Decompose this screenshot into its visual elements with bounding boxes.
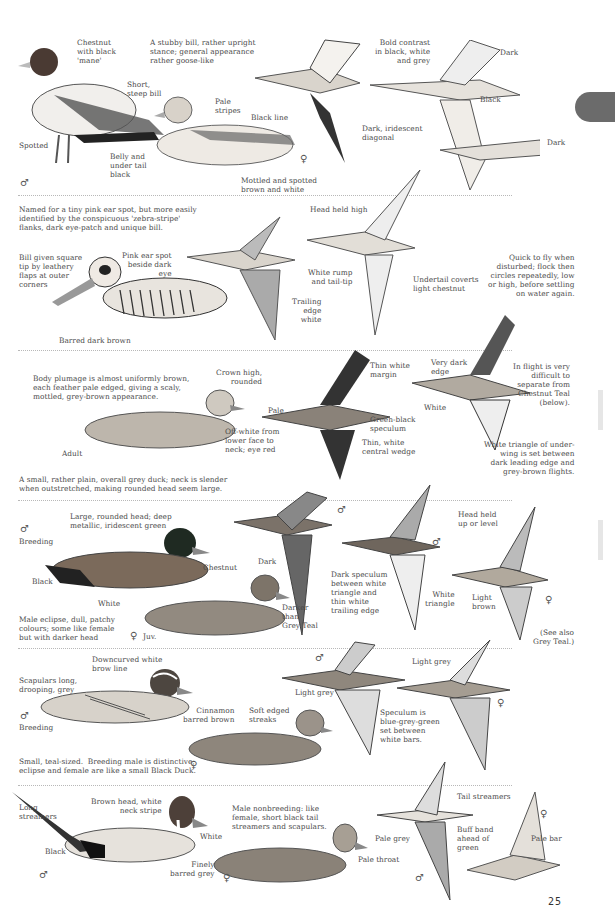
label-pale-grey: Pale grey [375, 834, 410, 843]
label-pale-bar: Pale bar [531, 834, 562, 843]
label-barred-dark-brown: Barred dark brown [59, 336, 131, 345]
flight-note: In flight is very difficult to separate … [513, 362, 570, 407]
female-symbol: ♀ [545, 594, 552, 605]
flight-note: Quick to fly when disturbed; flock then … [488, 253, 575, 298]
label-white-triangle: White triangle of under- wing is set bet… [484, 440, 574, 476]
female-symbol: ♀ [497, 697, 504, 708]
page-edge-mark [598, 520, 603, 560]
label-short-bill: Short, steep bill [127, 80, 161, 98]
male-symbol: ♂ [39, 869, 48, 880]
female-symbol: ♀ [540, 808, 547, 819]
label-breeding: Breeding [19, 723, 53, 732]
label-black: Black [480, 95, 501, 104]
label-black: Black [45, 847, 66, 856]
label-soft-edged-streaks: Soft edged streaks [249, 706, 290, 724]
label-white: White [424, 403, 446, 412]
label-bold-contrast: Bold contrast in black, white and grey [375, 38, 430, 65]
label-crown-high: Crown high, rounded [216, 368, 262, 386]
male-symbol: ♂ [432, 536, 441, 547]
page-edge-mark [598, 390, 603, 430]
label-tail-streamers: Tail streamers [457, 792, 511, 801]
label-head-held-high: Head held high [310, 205, 368, 214]
label-darker-than-grey-teal: Darker than Grey Teal [282, 603, 318, 630]
label-dark: Dark [258, 557, 276, 566]
label-speculum: Speculum is blue-grey-green set between … [380, 708, 440, 744]
intro-text: A stubby bill, rather upright stance; ge… [150, 38, 256, 65]
label-pink-ear-spot: Pink ear spot beside dark eye [122, 251, 172, 278]
flying-pink-eared-illustration [185, 215, 305, 345]
body-plumage-text: Body plumage is almost uniformly brown, … [33, 374, 189, 401]
label-offwhite: Off-white from lower face to neck; eye r… [225, 427, 279, 454]
label-light-grey: Light grey [295, 688, 334, 697]
label-cinnamon: Cinnamon barred brown [183, 706, 234, 724]
label-trailing-edge: Trailing edge white [292, 297, 321, 324]
garganey-male-illustration [35, 665, 195, 730]
label-white: White [200, 832, 222, 841]
label-dark: Dark [500, 48, 518, 57]
label-undertail-coverts: Undertail coverts light chestnut [413, 275, 479, 293]
label-pale: Pale [268, 406, 284, 415]
label-long-streamers: Long streamers [19, 803, 57, 821]
male-symbol: ♂ [415, 872, 424, 883]
label-iridescent-diagonal: Dark, iridescent diagonal [362, 124, 422, 142]
label-chestnut-mane: Chestnut with black 'mane' [77, 38, 116, 65]
label-white-rump: White rump and tail-tip [308, 268, 352, 286]
female-symbol: ♀ [300, 153, 307, 164]
label-dark-speculum: Dark speculum between white triangle and… [331, 570, 388, 615]
page-number: 25 [548, 896, 562, 907]
thumb-index-tab [575, 92, 615, 122]
female-symbol: ♀ [130, 630, 137, 641]
label-scapulars: Scapulars long, drooping, grey [19, 676, 77, 694]
label-very-dark-edge: Very dark edge [431, 358, 467, 376]
label-adult: Adult [62, 449, 82, 458]
eclipse-note: Male eclipse, dull, patchy colours; some… [19, 615, 115, 642]
label-white-triangle: White triangle [425, 590, 455, 608]
see-also-note: (See also Grey Teal.) [533, 628, 574, 646]
label-chestnut: Chestnut [203, 563, 237, 572]
label-black: Black [32, 577, 53, 586]
male-symbol: ♂ [20, 523, 29, 534]
label-bill-square-tip: Bill given square tip by leathery flaps … [19, 253, 82, 289]
label-large-head: Large, rounded head; deep metallic, irid… [70, 512, 172, 530]
male-symbol: ♂ [20, 710, 29, 721]
male-symbol: ♂ [20, 177, 29, 188]
label-pale-throat: Pale throat [358, 855, 399, 864]
label-white: White [98, 599, 120, 608]
label-head-held-up: Head held up or level [458, 510, 498, 528]
label-brow-line: Downcurved white brow line [92, 655, 162, 673]
label-juv: Juv. [143, 632, 156, 641]
label-spotted: Spotted [19, 141, 48, 150]
nonbreeding-note: Male nonbreeding: like female, short bla… [232, 804, 327, 831]
female-symbol: ♀ [223, 872, 230, 883]
label-central-wedge: Thin, white central wedge [362, 438, 415, 456]
label-belly-black: Belly and under tail black [110, 152, 147, 179]
label-black-line: Black line [251, 113, 288, 122]
label-light-brown: Light brown [472, 593, 496, 611]
flying-pink-eared-2-illustration [305, 170, 425, 340]
label-thin-white-margin: Thin white margin [370, 361, 410, 379]
female-symbol: ♀ [190, 759, 197, 770]
male-symbol: ♂ [337, 504, 346, 515]
label-dark: Dark [547, 138, 565, 147]
summary-text: A small, rather plain, overall grey duck… [19, 475, 227, 493]
intro-text: Named for a tiny pink ear spot, but more… [19, 205, 197, 232]
label-finely-barred: Finely barred grey [170, 860, 214, 878]
label-breeding: Breeding [19, 537, 53, 546]
label-pale-stripes: Pale stripes [215, 97, 241, 115]
label-brown-head: Brown head, white neck stripe [91, 797, 162, 815]
male-symbol: ♂ [315, 652, 324, 663]
label-light-grey: Light grey [412, 657, 451, 666]
label-buff-band: Buff band ahead of green [457, 825, 493, 852]
summary-text: Small, teal-sized. Breeding male is dist… [19, 757, 196, 775]
label-green-black-speculum: Green-black speculum [370, 415, 416, 433]
